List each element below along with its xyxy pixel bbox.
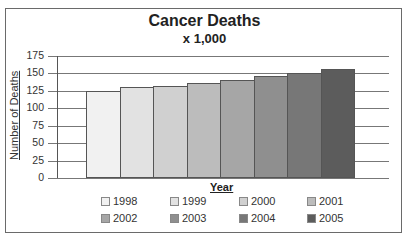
- legend-label: 2004: [251, 212, 275, 224]
- bar-2003: [254, 76, 289, 178]
- bar-1999: [120, 87, 155, 178]
- legend-item-2004: 2004: [239, 212, 275, 224]
- legend-item-2003: 2003: [170, 212, 206, 224]
- legend-item-1999: 1999: [170, 195, 206, 207]
- y-axis-line: [57, 56, 58, 178]
- bar-2005: [321, 69, 356, 178]
- bar-2001: [187, 83, 222, 178]
- y-tick-label: 25: [14, 154, 44, 166]
- legend-label: 2002: [113, 212, 137, 224]
- legend-label: 2003: [182, 212, 206, 224]
- y-tick-label: 75: [14, 119, 44, 131]
- legend-label: 2005: [319, 212, 343, 224]
- legend-item-2005: 2005: [307, 212, 343, 224]
- legend-label: 1998: [113, 195, 137, 207]
- x-axis-label: Year: [210, 181, 233, 193]
- legend-item-2000: 2000: [239, 195, 275, 207]
- chart-subtitle: x 1,000: [0, 31, 409, 46]
- legend-swatch: [239, 214, 248, 223]
- legend-swatch: [101, 197, 110, 206]
- legend-swatch: [239, 197, 248, 206]
- legend-label: 2001: [319, 195, 343, 207]
- y-tick-label: 125: [14, 84, 44, 96]
- y-tick-label: 50: [14, 136, 44, 148]
- y-tick-label: 150: [14, 66, 44, 78]
- bar-2002: [220, 80, 255, 178]
- legend-swatch: [307, 214, 316, 223]
- legend-swatch: [101, 214, 110, 223]
- y-tick-label: 100: [14, 101, 44, 113]
- legend-swatch: [170, 197, 179, 206]
- legend-item-1998: 1998: [101, 195, 137, 207]
- chart-title: Cancer Deaths: [0, 12, 409, 30]
- legend-swatch: [170, 214, 179, 223]
- gridline: [48, 178, 389, 179]
- bar-1998: [86, 91, 121, 178]
- gridline: [48, 56, 389, 57]
- bar-2000: [153, 86, 188, 178]
- legend-label: 1999: [182, 195, 206, 207]
- legend-swatch: [307, 197, 316, 206]
- y-tick-label: 0: [14, 171, 44, 183]
- legend-item-2002: 2002: [101, 212, 137, 224]
- legend-label: 2000: [251, 195, 275, 207]
- bar-2004: [287, 73, 322, 178]
- legend-item-2001: 2001: [307, 195, 343, 207]
- y-tick-label: 175: [14, 49, 44, 61]
